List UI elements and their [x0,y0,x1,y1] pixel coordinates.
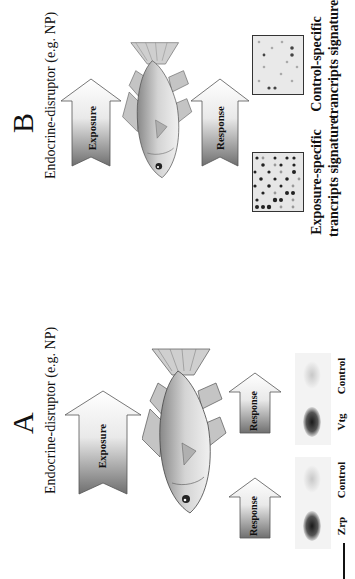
response-label-a-1: Response [248,493,259,539]
signature-label-control: Control-specific trancripts signature [308,9,342,119]
signature-label-exposure: Exposure-specific trancripts signature [308,127,342,237]
microarray-exposure [252,152,304,212]
panel-a-letter: A [8,412,38,434]
panel-b-letter: B [8,113,38,133]
microarray-control [252,35,304,95]
exposure-label-a: Exposure [96,411,108,481]
panel-a-subtitle: Endocrine-disruptor (e.g. NP) [44,327,58,494]
blot-band-zrp [303,511,321,541]
blot-band-vtg [303,407,321,437]
lane-label-control-1: Control [335,457,347,503]
northern-blot-zrp [295,457,331,549]
response-label-b: Response [214,97,226,159]
blot-band-control-2 [303,361,321,389]
exposure-label-b: Exposure [86,97,98,159]
signature-label-control-line2: trancripts signature [325,9,342,119]
figure-canvas: A Endocrine-disruptor (e.g. NP) Exposure [0,0,355,579]
signature-label-exposure-line1: Exposure-specific [308,127,325,237]
northern-blot-vtg [295,353,331,445]
signature-label-exposure-line2: trancripts signature [325,127,342,237]
scale-bar [343,543,345,579]
blot-band-control-1 [303,465,321,493]
lane-label-vtg: Vtg [335,399,347,445]
lane-label-zrp: Zrp [335,503,347,549]
lane-label-control-2: Control [335,353,347,399]
fish-icon-a [142,347,228,517]
response-label-a-2: Response [248,388,259,434]
fish-icon-b [122,41,194,181]
signature-label-control-line1: Control-specific [308,9,325,119]
panel-b-subtitle: Endocrine-disruptor (e.g. NP) [44,12,58,179]
